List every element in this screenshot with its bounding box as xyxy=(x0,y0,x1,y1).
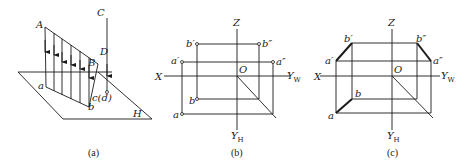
label-cd: c(d) xyxy=(92,92,112,103)
label-Z: Z xyxy=(387,17,396,28)
label-D: D xyxy=(99,46,108,57)
label-C: C xyxy=(97,7,105,18)
panel-b-three-view-points: Z X O YW YH b′ b″ a′ a″ b a (b) xyxy=(154,17,302,159)
label-b-prime: b′ xyxy=(186,38,195,49)
label-a-prime: a′ xyxy=(171,55,180,66)
label-a: a xyxy=(328,110,334,121)
45-degree-line xyxy=(237,76,276,118)
label-X: X xyxy=(154,71,163,82)
label-b-dprime: b″ xyxy=(262,38,272,49)
label-a-dprime: a″ xyxy=(276,56,286,67)
label-YH: YH xyxy=(387,130,400,144)
label-b: b xyxy=(355,88,361,99)
point-a-dprime xyxy=(272,61,275,64)
panel-a-pictorial: A C D B a c(d) b H (a) xyxy=(18,7,152,159)
label-O: O xyxy=(239,64,247,75)
front-view-line xyxy=(336,43,352,61)
line-ab-projection xyxy=(46,87,89,107)
point-a-prime xyxy=(181,61,184,64)
label-YW: YW xyxy=(287,70,302,84)
label-b-dprime: b″ xyxy=(416,33,426,44)
45-degree-line xyxy=(392,76,433,118)
label-YH: YH xyxy=(231,130,244,144)
label-b: b xyxy=(88,101,94,112)
label-H: H xyxy=(132,108,142,119)
projection-figure: A C D B a c(d) b H (a) Z X O YW xyxy=(0,0,467,166)
label-O: O xyxy=(394,64,402,75)
point-a xyxy=(181,113,184,116)
panel-c-three-view-line: Z X O YW YH b′ b″ a′ a″ b a (c) xyxy=(313,17,456,159)
side-view-line xyxy=(417,43,431,61)
point-b-dprime xyxy=(258,43,261,46)
label-b-prime: b′ xyxy=(344,33,353,44)
label-X: X xyxy=(313,71,322,82)
point-b xyxy=(196,98,199,101)
label-B: B xyxy=(87,57,95,68)
point-b-prime xyxy=(196,43,199,46)
caption-b: (b) xyxy=(231,147,243,159)
label-a: a xyxy=(173,109,179,120)
caption-a: (a) xyxy=(88,147,99,159)
label-a-dprime: a″ xyxy=(433,55,443,66)
label-YW: YW xyxy=(441,70,456,84)
label-b: b xyxy=(189,95,195,106)
label-a-prime: a′ xyxy=(325,55,334,66)
label-Z: Z xyxy=(232,17,241,28)
caption-c: (c) xyxy=(387,147,398,159)
top-view-line xyxy=(336,99,352,113)
label-A: A xyxy=(35,19,43,30)
label-a: a xyxy=(38,80,44,91)
